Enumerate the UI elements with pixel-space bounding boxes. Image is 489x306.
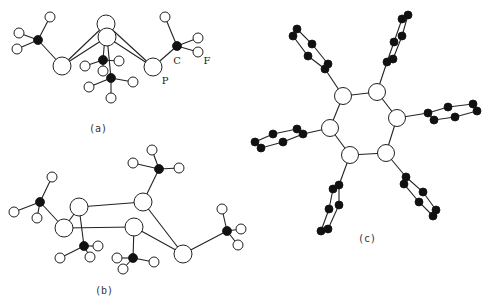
phosphorus-atom <box>125 218 143 236</box>
fluorine-atom <box>98 66 108 76</box>
fluorine-atom <box>236 224 246 234</box>
phosphorus-atom <box>98 28 116 46</box>
fluorine-atom <box>45 12 55 22</box>
carbon-atom <box>390 38 398 46</box>
phenyl-ring <box>383 11 412 66</box>
carbon-atom <box>289 32 297 40</box>
panel-b-molecule: (b) <box>9 145 246 296</box>
panel-c-molecule: (c) <box>251 11 481 244</box>
fluorine-atom <box>112 253 122 263</box>
atom-label-f: F <box>204 55 211 66</box>
carbon-atom <box>419 188 427 196</box>
fluorine-atom <box>160 12 170 22</box>
carbon-atom <box>424 109 432 117</box>
carbon-atom <box>34 36 43 45</box>
fluorine-atom <box>147 145 157 155</box>
panel-caption-a: (a) <box>89 123 107 134</box>
phosphorus-atom <box>389 110 406 127</box>
carbon-atom <box>400 180 408 188</box>
carbon-atom <box>451 113 459 121</box>
fluorine-atom <box>55 253 65 263</box>
fluorine-atom <box>12 44 22 54</box>
phenyl-ring <box>289 25 332 73</box>
fluorine-atom <box>14 28 24 38</box>
fluorine-atom <box>193 47 203 57</box>
carbon-atom <box>398 32 406 40</box>
carbon-atom <box>129 254 138 263</box>
carbon-atom <box>325 205 333 213</box>
fluorine-atom <box>233 240 243 250</box>
carbon-atom <box>173 42 182 51</box>
phosphorus-atom <box>369 84 386 101</box>
fluorine-atom <box>149 257 159 267</box>
carbon-atom <box>223 227 232 236</box>
fluorine-atom <box>128 77 138 87</box>
atom-label-p: P <box>162 75 169 86</box>
carbon-atom <box>80 242 89 251</box>
phenyl-ring <box>317 181 343 235</box>
phosphorus-atom <box>144 58 162 76</box>
molecular-structures-figure: P C F (a) <box>0 0 489 306</box>
carbon-atom <box>383 58 391 66</box>
fluorine-atom <box>47 172 57 182</box>
fluorine-atom <box>193 33 203 43</box>
phosphorus-atom <box>134 193 152 211</box>
carbon-atom <box>99 56 108 65</box>
panel-a-molecule: P C F (a) <box>12 12 211 134</box>
panel-caption-c: (c) <box>358 233 376 244</box>
phosphorus-atom <box>70 198 88 216</box>
carbon-atom <box>444 103 452 111</box>
carbon-atom <box>279 138 287 146</box>
carbon-atom <box>251 138 259 146</box>
carbon-atom <box>299 130 307 138</box>
carbon-atom <box>304 52 312 60</box>
phosphorus-atom <box>55 219 73 237</box>
carbon-atom <box>429 212 437 220</box>
fluorine-atom <box>93 241 103 251</box>
fluorine-atom <box>118 264 128 274</box>
carbon-atom <box>317 227 325 235</box>
carbon-atom <box>335 201 343 209</box>
fluorine-atom <box>128 158 138 168</box>
fluorine-atom <box>85 252 95 262</box>
carbon-atom <box>321 65 329 73</box>
carbon-atom <box>36 198 45 207</box>
carbon-atom <box>269 130 277 138</box>
panel-caption-b: (b) <box>95 285 113 296</box>
phosphorus-atom <box>322 120 339 137</box>
fluorine-atom <box>106 93 116 103</box>
phosphorus-atom <box>378 145 395 162</box>
carbon-atom <box>430 116 438 124</box>
phosphorus-atom <box>342 147 359 164</box>
phosphorus-atom <box>335 88 352 105</box>
carbon-atom <box>473 107 481 115</box>
fluorine-atom <box>114 56 124 66</box>
fluorine-atom <box>217 204 227 214</box>
atom-label-c: C <box>173 55 181 66</box>
phenyl-ring <box>424 100 481 124</box>
carbon-atom <box>155 165 164 174</box>
phenyl-ring <box>251 125 307 152</box>
fluorine-atom <box>80 61 90 71</box>
carbon-atom <box>257 144 265 152</box>
carbon-atom <box>415 198 423 206</box>
carbon-atom <box>329 185 337 193</box>
carbon-atom <box>107 74 116 83</box>
fluorine-atom <box>84 82 94 92</box>
phosphorus-atom <box>174 245 192 263</box>
carbon-atom <box>398 15 406 23</box>
fluorine-atom <box>32 213 42 223</box>
fluorine-atom <box>174 163 184 173</box>
fluorine-atom <box>9 207 19 217</box>
carbon-atom <box>308 40 316 48</box>
phenyl-ring <box>400 173 440 220</box>
phosphorus-atom <box>53 57 71 75</box>
